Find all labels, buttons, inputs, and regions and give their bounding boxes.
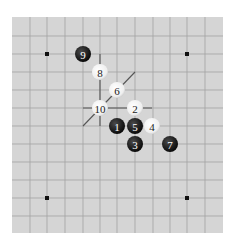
star-point [185,52,189,56]
stone-black-move-5: 5 [127,118,143,134]
star-point [185,196,189,200]
star-point [45,52,49,56]
move-number: 9 [80,49,86,61]
stone-white-move-6: 6 [109,82,125,98]
move-number: 7 [167,139,173,151]
stone-black-move-3: 3 [127,136,143,152]
move-number: 1 [114,121,120,133]
stone-white-move-2: 2 [127,100,143,116]
stone-white-move-10: 10 [92,100,108,116]
stone-black-move-1: 1 [109,118,125,134]
move-number: 8 [97,67,103,79]
stone-white-move-4: 4 [144,118,160,134]
go-board: 12345678910 [0,0,236,245]
move-number: 2 [132,103,138,115]
move-number: 6 [114,85,120,97]
move-number: 10 [95,103,107,115]
star-point [45,196,49,200]
move-number: 5 [132,121,138,133]
stone-white-move-8: 8 [92,64,108,80]
stone-black-move-9: 9 [75,46,91,62]
move-number: 3 [132,139,138,151]
move-number: 4 [149,121,155,133]
stone-black-move-7: 7 [162,136,178,152]
